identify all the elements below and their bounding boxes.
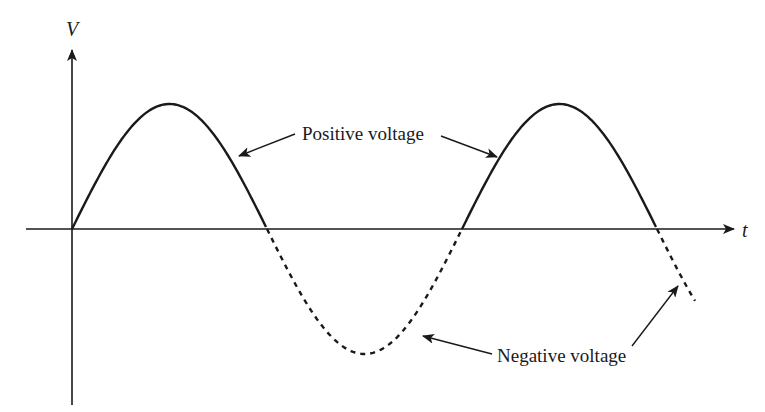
- negative-arrow-right: [632, 286, 678, 346]
- x-axis-label: t: [742, 219, 748, 241]
- y-axis-label: V: [66, 18, 81, 40]
- negative-arrow-left: [423, 336, 492, 354]
- negative-half-cycle: [657, 229, 695, 301]
- positive-arrow-left: [239, 134, 295, 156]
- positive-half-cycle: [72, 104, 266, 229]
- positive-half-cycle: [462, 104, 656, 229]
- positive-voltage-label: Positive voltage: [302, 123, 424, 144]
- voltage-diagram: V t Positive voltage Negative voltage: [0, 0, 765, 412]
- positive-arrow-right: [441, 136, 497, 157]
- negative-half-cycle: [267, 229, 461, 354]
- negative-voltage-label: Negative voltage: [497, 345, 626, 366]
